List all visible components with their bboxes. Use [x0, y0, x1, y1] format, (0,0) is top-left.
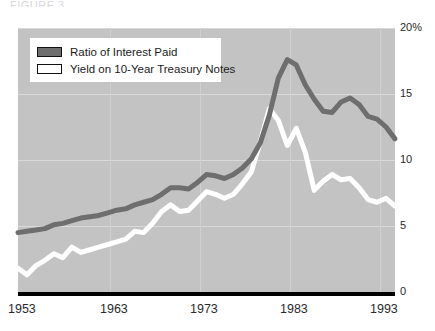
legend-swatch-ratio	[37, 47, 62, 57]
legend-label-yield: Yield on 10-Year Treasury Notes	[70, 63, 235, 75]
series-line-yield	[18, 109, 395, 275]
legend-label-ratio: Ratio of Interest Paid	[70, 46, 177, 58]
x-tick-label: 1973	[190, 303, 218, 316]
x-tick-label: 1963	[100, 303, 128, 316]
figure-title-cropped: FIGURE 3	[10, 0, 130, 7]
legend-swatch-yield	[37, 64, 62, 74]
x-tick-label: 1983	[280, 303, 308, 316]
y-tick-label: 15	[400, 88, 412, 99]
x-tick-label: 1993	[370, 303, 398, 316]
x-axis-line	[18, 292, 395, 296]
x-tick-label: 1953	[8, 303, 36, 316]
series-line-ratio	[18, 60, 395, 233]
chart-legend: Ratio of Interest Paid Yield on 10-Year …	[30, 38, 221, 82]
chart-figure: FIGURE 3 20% 15 10 5 0 1953 1963 1973 19…	[0, 0, 435, 331]
legend-item-ratio: Ratio of Interest Paid	[37, 43, 214, 60]
y-tick-label: 5	[400, 220, 406, 231]
legend-item-yield: Yield on 10-Year Treasury Notes	[37, 60, 214, 77]
y-tick-label: 20%	[400, 22, 422, 33]
y-tick-label: 10	[400, 154, 412, 165]
y-tick-label: 0	[400, 286, 406, 297]
